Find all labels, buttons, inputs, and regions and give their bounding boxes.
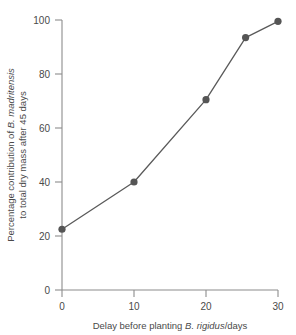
y-tick-label-0: 0 — [44, 285, 50, 296]
data-point — [58, 226, 65, 233]
y-tick-label-60: 60 — [39, 123, 51, 134]
line-chart: 100 80 60 40 20 0 0 10 20 30 Delay befor… — [0, 0, 296, 335]
y-axis-title-line1: Percentage contribution of B. madritensi… — [5, 68, 16, 242]
x-tick-label-0: 0 — [59, 301, 65, 312]
y-tick-label-100: 100 — [33, 15, 50, 26]
data-point — [130, 178, 137, 185]
data-point — [274, 18, 281, 25]
y-axis-title-line2: to total dry mass after 45 days — [17, 91, 28, 219]
x-tick-label-10: 10 — [128, 301, 140, 312]
data-point — [202, 96, 209, 103]
data-point — [242, 34, 249, 41]
x-axis-title: Delay before planting B. rigidus/days — [93, 320, 248, 331]
y-tick-label-40: 40 — [39, 177, 51, 188]
y-tick-label-80: 80 — [39, 69, 51, 80]
x-tick-label-30: 30 — [272, 301, 284, 312]
x-tick-label-20: 20 — [200, 301, 212, 312]
y-tick-label-20: 20 — [39, 231, 51, 242]
